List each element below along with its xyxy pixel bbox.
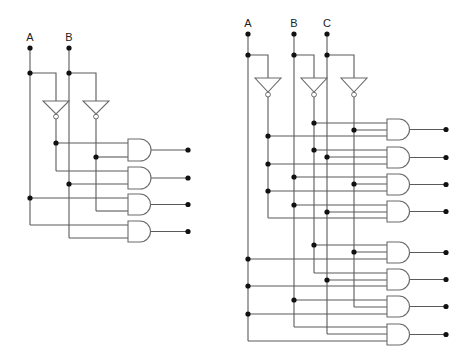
input-terminal-c [324,31,329,36]
junction-dot [324,154,329,159]
and-gate-1 [128,139,151,161]
input-label-a: A [26,31,34,43]
inverter-feed-b [294,55,314,78]
inverter-feed-c [327,55,354,78]
inverter-feed-b [69,73,96,101]
input-terminal-a [245,31,250,36]
inversion-bubble-icon [352,92,357,97]
inversion-bubble-icon [94,114,99,119]
output-terminal-1 [185,147,190,152]
junction-dot [324,209,329,214]
input-label-a: A [244,17,252,29]
junction-dot [311,242,316,247]
branch-junction-a [245,52,250,57]
output-terminal-7 [443,304,448,309]
junction-dot [311,147,316,152]
junction-dot [265,188,270,193]
input-terminal-b [66,45,71,50]
output-terminal-3 [185,202,190,207]
junction-dot [265,133,270,138]
junction-dot [311,120,316,125]
not-gate-b [83,101,109,114]
branch-junction-a [27,70,32,75]
inversion-bubble-icon [312,92,317,97]
and-gate-2 [387,147,410,168]
and-gate-4 [128,221,151,242]
input-terminal-a [27,45,32,50]
decoder-3-to-8-circuit: ABC [244,17,448,345]
output-terminal-6 [443,277,448,282]
and-gate-6 [387,269,410,290]
output-terminal-1 [443,127,448,132]
junctions [27,45,190,234]
output-terminal-5 [443,250,448,255]
junction-dot [351,127,356,132]
input-label-b: B [290,17,297,29]
junction-dot [291,174,296,179]
inversion-bubble-icon [54,114,59,119]
junction-dot [351,249,356,254]
and-gate-4 [387,201,410,222]
and-gate-5 [387,242,410,263]
junction-dot [93,154,98,159]
output-terminal-2 [443,155,448,160]
output-terminal-8 [443,332,448,337]
decoder-2-to-4-circuit: AB [26,31,190,242]
output-terminal-4 [185,229,190,234]
junction-dot [245,283,250,288]
inverter-feed-a [248,55,268,78]
input-terminal-b [291,31,296,36]
not-gate-c [341,78,367,92]
input-label-b: B [65,31,72,43]
junction-dot [245,311,250,316]
and-gate-2 [128,167,151,189]
junction-dot [291,297,296,302]
output-terminal-2 [185,175,190,180]
inverter-feed-a [30,73,56,101]
junction-dot [53,140,58,145]
branch-junction-b [66,70,71,75]
and-gate-1 [387,119,410,140]
not-gate-a [43,101,69,114]
and-gate-7 [387,296,410,317]
and-gate-3 [387,174,410,195]
junction-dot [265,161,270,166]
not-gate-a [255,78,281,92]
junction-dot [324,277,329,282]
junction-dot [245,256,250,261]
and-gate-8 [387,324,410,345]
not-gate-b [301,78,327,92]
junction-dot [66,181,71,186]
junction-dot [27,195,32,200]
input-label-c: C [323,17,331,29]
junction-dot [351,181,356,186]
inversion-bubble-icon [266,92,271,97]
branch-junction-c [324,52,329,57]
junction-dot [291,202,296,207]
logic-decoder-diagrams: AB ABC [0,0,474,360]
and-gate-3 [128,194,151,215]
output-terminal-4 [443,209,448,214]
output-terminal-3 [443,182,448,187]
branch-junction-b [291,52,296,57]
